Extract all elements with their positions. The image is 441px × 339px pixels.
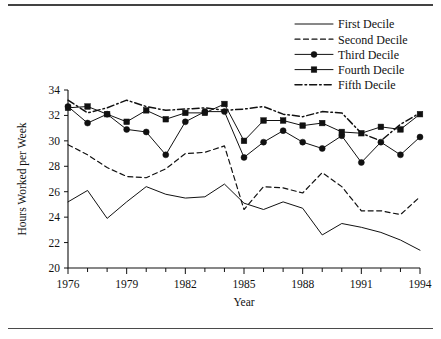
series-third-decile (65, 104, 423, 166)
data-point-marker (319, 120, 325, 126)
legend-entry: Third Decile (295, 48, 399, 62)
legend-label: First Decile (338, 17, 394, 31)
series-line (68, 100, 420, 141)
series-line (68, 107, 420, 163)
y-tick-label: 20 (49, 262, 61, 274)
y-axis-title: Hours Worked per Week (16, 122, 29, 235)
data-point-marker (65, 105, 71, 111)
data-point-marker (143, 129, 149, 135)
data-point-marker (300, 139, 306, 145)
x-tick-label: 1988 (291, 278, 314, 290)
data-point-marker (261, 118, 267, 124)
chart-legend: First DecileSecond DecileThird DecileFou… (295, 17, 408, 92)
data-point-marker (104, 111, 110, 117)
data-point-marker (300, 123, 306, 129)
y-tick-label: 22 (49, 237, 61, 249)
data-point-marker (85, 120, 91, 126)
legend-label: Fourth Decile (338, 63, 404, 77)
series-line (68, 184, 420, 250)
legend-label: Third Decile (338, 48, 399, 62)
data-point-marker (241, 138, 247, 144)
data-point-marker (163, 152, 169, 158)
data-point-marker (124, 126, 130, 132)
chart-series (65, 100, 423, 250)
data-point-marker (85, 104, 91, 110)
legend-entry: Second Decile (295, 33, 408, 47)
data-point-marker (163, 116, 169, 122)
data-point-marker (417, 134, 423, 140)
data-point-marker (124, 119, 130, 125)
y-tick-label: 34 (49, 84, 61, 96)
x-axis-title: Year (233, 296, 254, 308)
top-horizontal-rule (8, 4, 433, 6)
data-point-marker (280, 118, 286, 124)
legend-label: Fifth Decile (338, 78, 396, 92)
data-point-marker (183, 110, 189, 116)
y-tick-label: 24 (49, 211, 61, 223)
data-point-marker (311, 67, 317, 73)
legend-label: Second Decile (338, 33, 408, 47)
y-tick-label: 30 (49, 135, 61, 147)
x-tick-label: 1979 (115, 278, 138, 290)
data-point-marker (261, 139, 267, 145)
y-tick-label: 32 (49, 109, 61, 121)
x-tick-label: 1976 (57, 278, 80, 290)
data-point-marker (339, 129, 345, 135)
x-tick-label: 1982 (174, 278, 197, 290)
x-tick-label: 1985 (233, 278, 256, 290)
data-point-marker (182, 119, 188, 125)
data-point-marker (202, 110, 208, 116)
data-point-marker (378, 124, 384, 130)
x-tick-label: 1991 (350, 278, 373, 290)
data-point-marker (241, 154, 247, 160)
axis-spines (68, 90, 420, 268)
line-chart: First DecileSecond DecileThird DecileFou… (0, 0, 441, 339)
legend-entry: First Decile (295, 17, 394, 31)
y-tick-label: 28 (49, 160, 61, 172)
legend-entry: Fourth Decile (295, 63, 404, 77)
legend-entry: Fifth Decile (295, 78, 396, 92)
data-point-marker (143, 108, 149, 114)
series-first-decile (68, 184, 420, 250)
x-tick-label: 1994 (409, 278, 432, 290)
series-fifth-decile (68, 100, 420, 141)
bottom-horizontal-rule (8, 328, 433, 329)
data-point-marker (397, 152, 403, 158)
data-point-marker (358, 159, 364, 165)
data-point-marker (398, 127, 404, 133)
data-point-marker (319, 145, 325, 151)
data-point-marker (222, 101, 228, 107)
series-fourth-decile (65, 101, 423, 143)
y-tick-label: 26 (49, 186, 61, 198)
data-point-marker (280, 128, 286, 134)
data-point-marker (311, 51, 317, 57)
figure-container: First DecileSecond DecileThird DecileFou… (0, 0, 441, 339)
